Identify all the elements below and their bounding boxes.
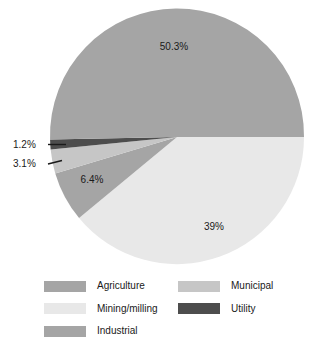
pie-slice-agriculture [50,8,304,139]
legend-label-mining-milling: Mining/milling [97,304,158,314]
pie-label-industrial: 6.4% [81,174,104,185]
legend-label-municipal: Municipal [231,281,273,291]
legend-swatch-utility [178,303,220,314]
pie-label-mining-milling: 39% [204,221,224,232]
legend-item-agriculture[interactable]: Agriculture [44,275,158,298]
pie-chart-figure: 50.3% 39% 6.4% 1.2% 3.1% Agriculture Min… [0,0,319,358]
chart-legend: Agriculture Mining/milling Industrial Mu… [44,275,294,351]
legend-swatch-mining-milling [44,303,86,314]
legend-label-utility: Utility [231,304,255,314]
legend-swatch-municipal [178,281,220,292]
legend-column-right: Municipal Utility [178,275,273,320]
pie-plot-area: 50.3% 39% 6.4% 1.2% 3.1% [0,0,319,272]
legend-label-agriculture: Agriculture [97,281,145,291]
legend-swatch-agriculture [44,281,86,292]
legend-column-left: Agriculture Mining/milling Industrial [44,275,158,343]
legend-item-utility[interactable]: Utility [178,298,273,321]
pie-svg: 50.3% 39% 6.4% 1.2% 3.1% [0,0,319,272]
pie-label-municipal: 3.1% [13,158,36,169]
legend-item-industrial[interactable]: Industrial [44,320,158,343]
pie-label-agriculture: 50.3% [160,41,188,52]
legend-item-municipal[interactable]: Municipal [178,275,273,298]
legend-item-mining-milling[interactable]: Mining/milling [44,298,158,321]
legend-swatch-industrial [44,326,86,337]
pie-label-utility: 1.2% [13,139,36,150]
legend-label-industrial: Industrial [97,326,138,336]
